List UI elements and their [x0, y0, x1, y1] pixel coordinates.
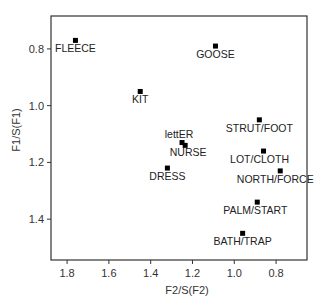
point-label: GOOSE — [196, 48, 235, 60]
x-tick-label: 1.6 — [101, 267, 116, 279]
y-tick-label: 1.4 — [29, 213, 44, 225]
y-tick-label: 0.8 — [29, 43, 44, 55]
x-axis: 1.81.61.41.21.00.8 — [59, 260, 283, 279]
data-point: STRUT/FOOT — [226, 117, 294, 134]
point-label: FLEECE — [55, 42, 96, 54]
data-point: FLEECE — [55, 38, 96, 55]
y-axis-label: F1/S(F1) — [10, 108, 22, 151]
x-tick-label: 1.8 — [59, 267, 74, 279]
data-points: FLEECEKITGOOSElettERNURSEDRESSSTRUT/FOOT… — [55, 38, 314, 247]
point-label: BATH/TRAP — [214, 235, 272, 247]
point-label: LOT/CLOTH — [230, 153, 289, 165]
data-point: lettER — [165, 128, 194, 146]
data-point: LOT/CLOTH — [230, 149, 289, 166]
point-label: lettER — [165, 128, 194, 140]
y-tick-label: 1.0 — [29, 100, 44, 112]
scatter-chart: 1.81.61.41.21.00.8 0.81.01.21.4 FLEECEKI… — [0, 0, 323, 305]
x-tick-label: 1.4 — [143, 267, 158, 279]
x-axis-label: F2/S(F2) — [165, 284, 208, 296]
point-label: KIT — [132, 93, 149, 105]
data-point: GOOSE — [196, 44, 235, 61]
point-label: DRESS — [149, 170, 185, 182]
y-axis: 0.81.01.21.4 — [29, 43, 51, 225]
data-point: PALM/START — [223, 200, 288, 217]
data-point: DRESS — [149, 166, 185, 183]
point-label: NORTH/FORCE — [237, 173, 314, 185]
data-point: NURSE — [170, 143, 207, 159]
x-tick-label: 1.2 — [185, 267, 200, 279]
x-tick-label: 0.8 — [268, 267, 283, 279]
x-tick-label: 1.0 — [227, 267, 242, 279]
point-label: NURSE — [170, 146, 207, 158]
data-point: NORTH/FORCE — [237, 168, 314, 185]
y-tick-label: 1.2 — [29, 156, 44, 168]
point-label: STRUT/FOOT — [226, 122, 294, 134]
data-point: KIT — [132, 89, 149, 106]
point-label: PALM/START — [223, 204, 288, 216]
data-point: BATH/TRAP — [214, 231, 272, 248]
